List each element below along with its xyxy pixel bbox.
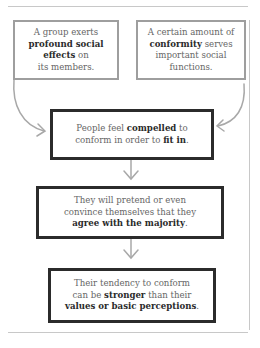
text-line: They will pretend or even — [64, 195, 196, 207]
body-text: People feel — [76, 123, 127, 133]
text-line: convince themselves that they — [64, 207, 196, 219]
right-curve-arrow-icon — [218, 84, 244, 126]
text-line: values or basic perceptions. — [65, 301, 199, 313]
body-text: its members. — [38, 62, 95, 72]
flow-box-stronger: Their tendency to conformcan be stronger… — [48, 268, 216, 323]
text-line: profound social — [28, 39, 103, 51]
box-text: Their tendency to conformcan be stronger… — [65, 278, 199, 313]
text-line: functions. — [148, 62, 235, 74]
text-line: can be stronger than their — [65, 290, 199, 302]
body-text: . — [196, 301, 199, 311]
text-line: Their tendency to conform — [65, 278, 199, 290]
emphasis-text: compelled — [127, 123, 177, 133]
body-text: A certain amount of — [148, 27, 235, 37]
text-line: effects on — [28, 50, 103, 62]
left-curve-arrow-icon — [14, 80, 44, 131]
emphasis-text: fit in — [163, 135, 186, 145]
body-text: convince themselves that they — [64, 207, 196, 217]
emphasis-text: agree with the majority — [72, 218, 185, 228]
body-text: can be — [73, 290, 105, 300]
box-text: People feel compelled toconform in order… — [75, 123, 188, 146]
flow-box-compelled: People feel compelled toconform in order… — [50, 109, 214, 160]
body-text: . — [186, 135, 189, 145]
body-text: to — [176, 123, 187, 133]
premise-box-group-effects: A group exertsprofound socialeffects oni… — [13, 20, 119, 80]
body-text: conform in order to — [75, 135, 163, 145]
emphasis-text: stronger — [104, 290, 145, 300]
text-line: A group exerts — [28, 27, 103, 39]
body-text: than their — [145, 290, 191, 300]
text-line: conform in order to fit in. — [75, 135, 188, 147]
text-line: its members. — [28, 62, 103, 74]
emphasis-text: effects — [43, 50, 75, 60]
text-line: important social — [148, 50, 235, 62]
text-line: A certain amount of — [148, 27, 235, 39]
body-text: important social — [156, 50, 227, 60]
box-text: A certain amount ofconformity servesimpo… — [148, 27, 235, 73]
emphasis-text: values or basic perceptions — [65, 301, 196, 311]
flow-box-agree: They will pretend or evenconvince themse… — [36, 186, 224, 239]
body-text: serves — [202, 39, 233, 49]
body-text: . — [185, 218, 188, 228]
body-text: on — [75, 50, 88, 60]
emphasis-text: conformity — [149, 39, 202, 49]
body-text: Their tendency to conform — [74, 278, 190, 288]
box-text: A group exertsprofound socialeffects oni… — [28, 27, 103, 73]
premise-box-conformity: A certain amount ofconformity servesimpo… — [136, 20, 246, 80]
text-line: conformity serves — [148, 39, 235, 51]
body-text: They will pretend or even — [74, 195, 186, 205]
emphasis-text: profound social — [28, 39, 103, 49]
text-line: agree with the majority. — [64, 218, 196, 230]
body-text: A group exerts — [34, 27, 98, 37]
text-line: People feel compelled to — [75, 123, 188, 135]
box-text: They will pretend or evenconvince themse… — [64, 195, 196, 230]
body-text: functions. — [169, 62, 212, 72]
